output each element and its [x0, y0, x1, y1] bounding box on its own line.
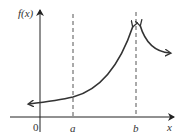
curve-right-branch	[140, 25, 170, 53]
x-axis-label: x	[166, 121, 172, 133]
a-label: a	[70, 122, 76, 134]
graph-canvas: f(x) x 0 a b	[0, 0, 180, 139]
function-graph: f(x) x 0 a b	[0, 0, 180, 139]
curve-left-branch	[29, 26, 133, 104]
b-label: b	[133, 122, 139, 134]
origin-label: 0	[33, 121, 39, 133]
y-axis-label: f(x)	[18, 7, 34, 20]
